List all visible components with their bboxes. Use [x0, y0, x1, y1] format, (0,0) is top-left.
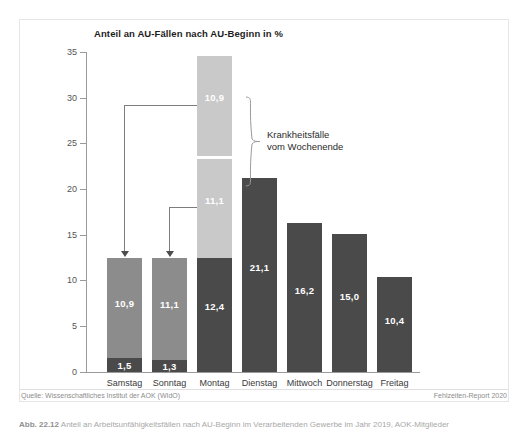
- y-tick-label-10: 10: [67, 275, 77, 285]
- y-tick-15: [80, 235, 86, 236]
- y-tick-0: [80, 372, 86, 373]
- bar-sonntag-value-day: 1,3: [152, 361, 187, 372]
- y-tick-label-20: 20: [67, 184, 77, 194]
- leader-line-samstag-horizontal: [124, 105, 197, 106]
- y-tick-25: [80, 143, 86, 144]
- figure-caption-text: Anteil an Arbeitsunfähigkeitsfällen nach…: [61, 421, 449, 429]
- y-tick-20: [80, 189, 86, 190]
- bar-donnerstag-value: 15,0: [332, 291, 367, 302]
- bar-sonntag-segment-day: 1,3: [152, 360, 187, 372]
- x-label-freitag: Freitag: [362, 378, 427, 388]
- bar-montag-segment-day: 12,4: [197, 258, 232, 372]
- weekend-brace-icon: [244, 95, 262, 188]
- arrow-head-samstag: [121, 251, 129, 257]
- weekend-annotation-line2: vom Wochenende: [267, 141, 343, 153]
- leader-line-samstag-vertical: [124, 105, 125, 253]
- figure-caption: Abb. 22.12 Anteil an Arbeitsunfähigkeits…: [19, 421, 449, 429]
- bar-dienstag-segment-day: 21,1: [242, 178, 277, 372]
- bar-dienstag[interactable]: 21,1: [242, 178, 277, 372]
- figure-caption-label: Abb. 22.12: [19, 421, 59, 429]
- bar-freitag[interactable]: 10,4: [377, 277, 412, 372]
- bar-sonntag-segment-weekend: 11,1: [152, 258, 187, 360]
- bar-donnerstag[interactable]: 15,0: [332, 234, 367, 372]
- bar-mittwoch-segment-day: 16,2: [287, 223, 322, 372]
- y-tick-35: [80, 52, 86, 53]
- y-tick-label-25: 25: [67, 138, 77, 148]
- y-tick-label-15: 15: [67, 230, 77, 240]
- weekend-annotation-line1: Krankheitsfälle: [267, 129, 329, 141]
- y-tick-30: [80, 98, 86, 99]
- bar-mittwoch[interactable]: 16,2: [287, 223, 322, 372]
- bar-montag-value-day: 12,4: [197, 301, 232, 312]
- y-tick-label-35: 35: [67, 47, 77, 57]
- bar-sonntag[interactable]: 11,1 1,3: [152, 258, 187, 372]
- bar-samstag-value-weekend: 10,9: [107, 298, 142, 309]
- source-note: Quelle: Wissenschaftliches Institut der …: [21, 392, 180, 399]
- bar-samstag-segment-weekend: 10,9: [107, 258, 142, 358]
- y-axis-line: [86, 52, 87, 373]
- bar-freitag-segment-day: 10,4: [377, 277, 412, 372]
- bar-samstag-value-day: 1,5: [107, 360, 142, 371]
- arrow-head-sonntag: [166, 251, 174, 257]
- bar-montag[interactable]: 10,9 11,1 12,4: [197, 56, 232, 372]
- leader-line-sonntag-horizontal: [169, 207, 197, 208]
- figure-caption-clip: Abb. 22.12 Anteil an Arbeitsunfähigkeits…: [19, 421, 509, 429]
- report-note: Fehlzeiten-Report 2020: [434, 392, 507, 399]
- bar-donnerstag-segment-day: 15,0: [332, 234, 367, 372]
- footer-divider: [19, 389, 509, 390]
- x-axis-line: [86, 372, 420, 373]
- bar-samstag-segment-day: 1,5: [107, 358, 142, 372]
- y-tick-label-30: 30: [67, 93, 77, 103]
- bar-montag-segment-samstag: 10,9: [197, 56, 232, 156]
- y-tick-10: [80, 280, 86, 281]
- y-tick-label-0: 0: [72, 367, 77, 377]
- bar-montag-value-sonntag: 11,1: [197, 195, 232, 206]
- bar-mittwoch-value: 16,2: [287, 285, 322, 296]
- y-tick-5: [80, 326, 86, 327]
- bar-freitag-value: 10,4: [377, 315, 412, 326]
- bar-montag-value-samstag: 10,9: [197, 92, 232, 103]
- bar-sonntag-value-weekend: 11,1: [152, 299, 187, 310]
- bar-montag-segment-sonntag: 11,1: [197, 159, 232, 258]
- bar-dienstag-value: 21,1: [242, 262, 277, 273]
- bar-samstag[interactable]: 10,9 1,5: [107, 258, 142, 372]
- y-tick-label-5: 5: [72, 321, 77, 331]
- chart-title: Anteil an AU-Fällen nach AU-Beginn in %: [94, 28, 283, 39]
- leader-line-sonntag-vertical: [169, 207, 170, 253]
- figure-container: Anteil an AU-Fällen nach AU-Beginn in % …: [0, 0, 528, 429]
